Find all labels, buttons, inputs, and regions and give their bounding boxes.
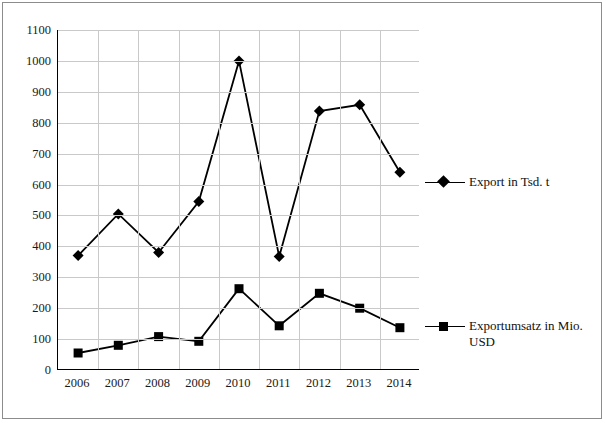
gridline-horizontal xyxy=(58,123,419,124)
legend-item-exportumsatz[interactable]: Exportumsatz in Mio. USD xyxy=(425,318,599,350)
x-tick-label: 2013 xyxy=(346,376,371,391)
x-tick-label: 2007 xyxy=(105,376,130,391)
data-point-marker xyxy=(315,289,324,298)
data-point-marker xyxy=(314,106,325,117)
chart-container: 010020030040050060070080090010001100 200… xyxy=(0,0,606,423)
diamond-marker-icon xyxy=(425,176,465,190)
x-tick-label: 2012 xyxy=(306,376,331,391)
legend-item-export[interactable]: Export in Tsd. t xyxy=(425,174,549,190)
x-tick-label: 2008 xyxy=(145,376,170,391)
x-tick-label: 2010 xyxy=(226,376,251,391)
legend-label-exportumsatz: Exportumsatz in Mio. USD xyxy=(469,318,599,350)
gridline-vertical xyxy=(138,30,139,369)
gridline-vertical xyxy=(380,30,381,369)
plot-area xyxy=(57,30,419,370)
gridline-vertical xyxy=(259,30,260,369)
gridline-horizontal xyxy=(58,61,419,62)
gridline-vertical xyxy=(299,30,300,369)
data-point-marker xyxy=(74,349,83,358)
series-line-1 xyxy=(78,61,400,257)
y-tick-label: 0 xyxy=(45,364,51,376)
gridline-vertical xyxy=(98,30,99,369)
y-tick-label: 500 xyxy=(32,209,51,221)
gridline-horizontal xyxy=(58,215,419,216)
gridline-vertical xyxy=(179,30,180,369)
square-marker-icon xyxy=(425,320,465,334)
data-point-marker xyxy=(395,323,404,332)
data-point-marker xyxy=(394,167,405,178)
y-tick-label: 800 xyxy=(32,117,51,129)
y-tick-label: 400 xyxy=(32,240,51,252)
y-tick-label: 700 xyxy=(32,148,51,160)
series-line-2 xyxy=(78,289,400,353)
series-svg xyxy=(58,30,420,370)
y-tick-label: 1100 xyxy=(26,24,51,36)
y-tick-label: 200 xyxy=(32,302,51,314)
data-point-marker xyxy=(274,251,285,262)
x-tick-label: 2009 xyxy=(185,376,210,391)
gridline-horizontal xyxy=(58,92,419,93)
gridline-vertical xyxy=(340,30,341,369)
y-tick-label: 300 xyxy=(32,271,51,283)
gridline-horizontal xyxy=(58,277,419,278)
x-tick-label: 2011 xyxy=(266,376,291,391)
y-tick-label: 1000 xyxy=(26,55,51,67)
gridline-horizontal xyxy=(58,30,419,31)
x-tick-label: 2006 xyxy=(65,376,90,391)
legend-label-export: Export in Tsd. t xyxy=(469,174,549,190)
gridline-horizontal xyxy=(58,308,419,309)
data-point-marker xyxy=(354,99,365,110)
gridline-horizontal xyxy=(58,154,419,155)
gridline-horizontal xyxy=(58,246,419,247)
y-tick-label: 100 xyxy=(32,333,51,345)
y-tick-label: 600 xyxy=(32,179,51,191)
data-point-marker xyxy=(235,284,244,293)
gridline-horizontal xyxy=(58,185,419,186)
x-axis-tick-labels: 200620072008200920102011201220132014 xyxy=(57,376,419,394)
y-tick-label: 900 xyxy=(32,86,51,98)
gridline-vertical xyxy=(219,30,220,369)
gridline-horizontal xyxy=(58,339,419,340)
data-point-marker xyxy=(114,341,123,350)
data-point-marker xyxy=(275,321,284,330)
y-axis-tick-labels: 010020030040050060070080090010001100 xyxy=(10,30,51,370)
x-tick-label: 2014 xyxy=(386,376,411,391)
